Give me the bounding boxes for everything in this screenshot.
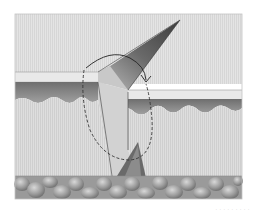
left-dermis <box>15 97 112 176</box>
right-dermis <box>128 105 242 178</box>
skin-block <box>14 14 243 199</box>
illustration-canvas <box>0 0 256 216</box>
left-surface-edge <box>15 72 98 82</box>
right-surface-edge <box>128 90 242 99</box>
figure-caption: · · · · · · · · · <box>215 206 250 212</box>
skin-flap-illustration <box>0 0 256 216</box>
